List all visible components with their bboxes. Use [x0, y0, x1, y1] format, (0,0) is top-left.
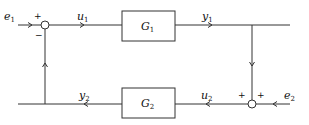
y2-wire: [18, 102, 122, 107]
block-diagram: e1 + − u1 G1 y1 G2 u2 y2 + + e2: [0, 0, 309, 125]
y1-branch-wire: [250, 25, 255, 100]
e1-input-wire: [18, 23, 41, 28]
feedback-wire: [43, 29, 48, 104]
summing-junction-1: [41, 21, 49, 29]
label-e1: e1: [4, 10, 15, 24]
label-y1: y1: [201, 10, 213, 24]
sum1-sign-plus: +: [34, 11, 42, 21]
sum1-sign-minus: −: [35, 30, 43, 40]
sum2-sign-plus-left: +: [238, 90, 246, 100]
e2-input-wire: [256, 102, 290, 107]
label-y2: y2: [78, 89, 90, 103]
sum2-sign-plus-right: +: [257, 90, 265, 100]
y1-wire: [175, 23, 290, 28]
label-e2: e2: [284, 89, 295, 103]
label-u1: u1: [77, 10, 89, 24]
summing-junction-2: [248, 100, 256, 108]
label-u2: u2: [201, 89, 213, 103]
